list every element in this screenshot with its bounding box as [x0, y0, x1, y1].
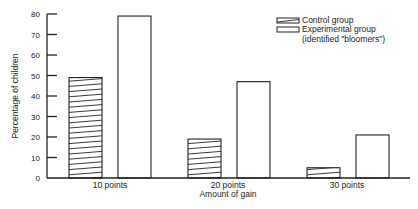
y-tick-label: 40 [31, 92, 40, 101]
y-tick-label: 80 [31, 10, 40, 19]
y-tick-label: 50 [31, 72, 40, 81]
plain-swatch-icon [277, 27, 299, 32]
x-category-label: 10 points [93, 180, 128, 190]
y-tick-label: 30 [31, 113, 40, 122]
y-axis: 01020304050607080 [31, 10, 57, 183]
y-tick-label: 0 [36, 174, 41, 183]
bar-control-2 [188, 136, 221, 180]
y-tick-label: 60 [31, 51, 40, 60]
legend: Control group Experimental group (identi… [277, 15, 385, 44]
y-tick-label: 20 [31, 133, 40, 142]
x-category-label: 30 points [330, 180, 365, 190]
bar-experimental-3 [356, 135, 389, 178]
bar-experimental-2 [237, 82, 270, 178]
legend-label-experimental: Experimental group [302, 24, 376, 34]
bar-chart: 01020304050607080 10 points20 points30 p… [0, 0, 418, 209]
legend-item-experimental: Experimental group (identified "bloomers… [277, 24, 385, 44]
y-tick-label: 70 [31, 31, 40, 40]
bar-control-3 [307, 162, 340, 180]
y-axis-title: Percentage of children [10, 53, 20, 138]
bar-experimental-1 [118, 16, 151, 178]
legend-label-experimental-note: (identified "bloomers") [302, 34, 385, 44]
bar-control-1 [69, 73, 102, 180]
x-axis-title: Amount of gain [199, 189, 256, 199]
y-tick-label: 10 [31, 154, 40, 163]
